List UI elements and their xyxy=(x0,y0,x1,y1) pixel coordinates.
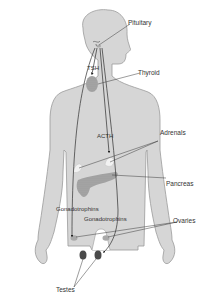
testis-right xyxy=(95,251,102,260)
label-testes: Testes xyxy=(56,287,75,294)
thyroid-gland xyxy=(86,76,98,92)
testis-left xyxy=(80,251,87,260)
label-tsh: TSH xyxy=(87,65,99,71)
label-pituitary: Pituitary xyxy=(128,20,151,27)
label-acth: ACTH xyxy=(97,133,113,139)
label-thyroid: Thyroid xyxy=(138,70,160,77)
endocrine-diagram xyxy=(0,0,207,305)
ovary-right xyxy=(103,235,110,241)
label-adrenals: Adrenals xyxy=(160,130,186,137)
label-ovaries: Ovaries xyxy=(173,218,195,225)
label-pancreas: Pancreas xyxy=(166,181,193,188)
ovary-left xyxy=(71,235,78,241)
label-gonadotrophins-left: Gonadotrophins xyxy=(56,206,99,212)
label-gonadotrophins-right: Gonadotrophins xyxy=(84,216,127,222)
